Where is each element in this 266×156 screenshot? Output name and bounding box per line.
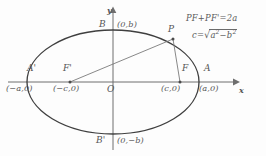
segment-p-to-right-focus (173, 39, 180, 82)
radical-sign-icon: √ (204, 29, 210, 40)
point-label-p: P (168, 25, 174, 34)
point-label-b-prime: B' (96, 136, 105, 145)
formula-term-pf-prime: PF' (205, 13, 219, 23)
formula-focal-relation: c=√a2−b2 (192, 29, 237, 39)
formula-equals-sign: = (219, 13, 226, 23)
formula-rhs-2a: 2a (227, 13, 238, 23)
point-label-a-prime: A' (27, 64, 36, 73)
y-axis (110, 7, 117, 151)
point-coord-f: (c,0) (161, 84, 180, 92)
y-axis-label: y (107, 6, 112, 14)
origin-label: O (107, 85, 114, 94)
point-label-f: F (182, 64, 188, 73)
point-coord-a: (a,0) (199, 84, 219, 92)
radicand-minus-sign: − (220, 30, 227, 40)
point-coord-b-prime: (0,−b) (117, 136, 144, 144)
point-coord-a-prime: (−a,0) (6, 84, 33, 92)
point-label-a: A (204, 64, 211, 73)
formula-term-pf: PF (186, 13, 198, 23)
point-coord-b: (0,b) (117, 20, 137, 28)
point-coord-f-prime: (−c,0) (53, 84, 79, 92)
point-dot-p (172, 38, 175, 41)
segment-p-to-left-focus (70, 39, 173, 82)
radicand-group: a2−b2 (209, 29, 237, 40)
point-label-b: B (99, 20, 106, 29)
radicand-exponent-b: 2 (232, 28, 236, 35)
formula-sum-of-distances: PF+PF'=2a (186, 14, 237, 22)
x-axis-label: x (239, 86, 244, 94)
point-label-f-prime: F' (63, 64, 72, 73)
formula-plus-sign: + (198, 13, 205, 23)
ellipse-geometry-figure: x y O A' (−a,0) A (a,0) B (0,b) B' (0,−b… (0, 0, 266, 156)
